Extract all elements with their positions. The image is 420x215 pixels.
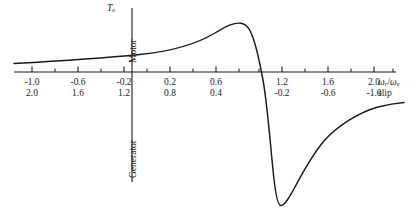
- torque-speed-chart: Te Motor Generator -1.0 -0.6 -0.2 0.2 0.…: [0, 0, 420, 215]
- y-axis-title: Te: [107, 4, 115, 14]
- chart-canvas: [0, 0, 420, 215]
- xtick-speed-2: -0.2: [106, 78, 142, 88]
- xtick-slip-0: 2.0: [14, 89, 50, 99]
- generator-region-label: Generator: [128, 140, 138, 178]
- xtick-slip-5: -0.2: [264, 89, 300, 99]
- xtick-speed-1: -0.6: [60, 78, 96, 88]
- x-axis-title-slip: slip: [378, 89, 410, 99]
- omega-e-symbol: ω: [390, 77, 397, 87]
- xtick-speed-3: 0.2: [152, 78, 188, 88]
- x-axis-title-speed: ωr/ωe: [378, 78, 400, 88]
- xtick-slip-3: 0.8: [152, 89, 188, 99]
- omega-e-subscript: e: [397, 80, 400, 87]
- motor-region-label: Motor: [128, 39, 138, 63]
- xtick-slip-6: -0.6: [310, 89, 346, 99]
- x-axis-major-ticks: [32, 67, 374, 73]
- omega-r-symbol: ω: [378, 77, 385, 87]
- xtick-slip-2: 1.2: [106, 89, 142, 99]
- xtick-speed-6: 1.6: [310, 78, 346, 88]
- xtick-speed-0: -1.0: [14, 78, 50, 88]
- xtick-speed-5: 1.2: [264, 78, 300, 88]
- xtick-speed-4: 0.6: [198, 78, 234, 88]
- y-axis-title-subscript: e: [112, 6, 115, 13]
- xtick-slip-1: 1.6: [60, 89, 96, 99]
- torque-curve: [14, 23, 404, 205]
- xtick-slip-4: 0.4: [198, 89, 234, 99]
